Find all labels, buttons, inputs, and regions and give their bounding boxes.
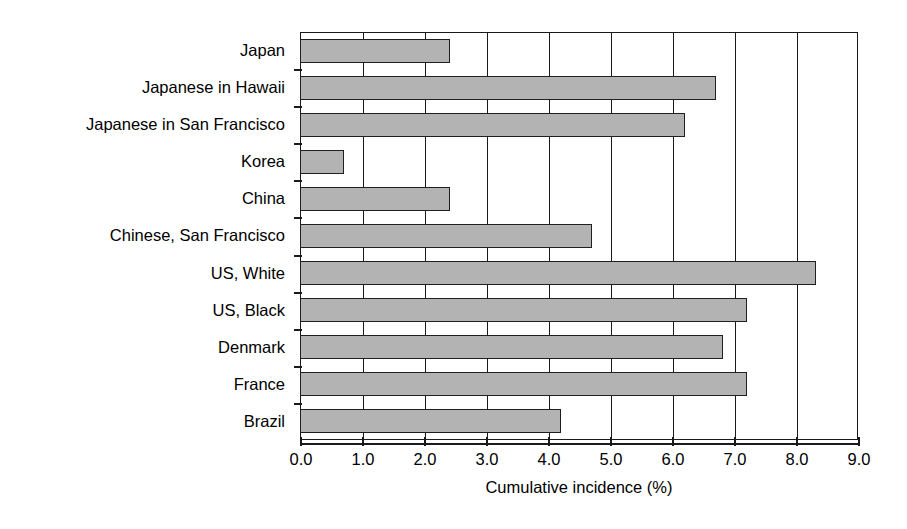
bar-row [301,33,857,70]
bar-denmark[interactable] [300,335,723,359]
y-axis-label-japanese-in-san-francisco: Japanese in San Francisco [0,106,294,143]
y-axis-label-brazil: Brazil [0,403,294,440]
y-axis-label-china: China [0,180,294,217]
y-axis-label-chinese-san-francisco: Chinese, San Francisco [0,217,294,254]
x-axis-tick-label-7.0: 7.0 [705,450,765,469]
y-axis-category-labels: JapanJapanese in HawaiiJapanese in San F… [0,32,294,440]
bar-row [301,402,857,439]
x-axis-tick-5.0 [610,437,612,446]
bar-us-white[interactable] [300,261,816,285]
bar-row [301,328,857,365]
x-axis-tick-label-4.0: 4.0 [519,450,579,469]
x-axis-tick-label-8.0: 8.0 [767,450,827,469]
y-axis-label-japanese-in-hawaii: Japanese in Hawaii [0,69,294,106]
bar-row [301,218,857,255]
bar-row [301,365,857,402]
bar-japanese-in-san-francisco[interactable] [300,113,685,137]
x-axis-tick-label-3.0: 3.0 [457,450,517,469]
bar-row [301,254,857,291]
bar-chart-figure: JapanJapanese in HawaiiJapanese in San F… [0,0,907,529]
x-axis-tick-6.0 [672,437,674,446]
x-axis-tick-label-6.0: 6.0 [643,450,703,469]
x-axis-tick-label-5.0: 5.0 [581,450,641,469]
plot-area [300,32,858,440]
y-axis-tick [294,69,302,71]
y-axis-tick [294,366,302,368]
y-axis-tick [294,180,302,182]
x-axis-tick-3.0 [486,437,488,446]
y-axis-tick [294,143,302,145]
y-axis-tick [294,292,302,294]
bar-row [301,144,857,181]
y-axis-tick [294,255,302,257]
bar-rows [301,33,857,439]
y-axis-label-us-white: US, White [0,254,294,291]
bar-japan[interactable] [300,39,450,63]
x-axis-tick-label-0.0: 0.0 [271,450,331,469]
y-axis-label-korea: Korea [0,143,294,180]
x-axis-line [300,443,858,445]
y-axis-label-us-black: US, Black [0,292,294,329]
y-axis-label-france: France [0,366,294,403]
bar-row [301,70,857,107]
x-axis-tick-4.0 [548,437,550,446]
x-axis-tick-0.0 [300,437,302,446]
x-axis-tick-label-1.0: 1.0 [333,450,393,469]
y-axis-tick [294,106,302,108]
x-axis-title: Cumulative incidence (%) [300,478,858,497]
bar-row [301,291,857,328]
bar-chinese-san-francisco[interactable] [300,224,592,248]
y-axis-label-denmark: Denmark [0,329,294,366]
y-axis-label-japan: Japan [0,32,294,69]
y-axis-tick [294,329,302,331]
x-axis-tick-label-9.0: 9.0 [829,450,889,469]
x-axis-tick-1.0 [362,437,364,446]
bar-korea[interactable] [300,150,344,174]
bar-japanese-in-hawaii[interactable] [300,76,716,100]
bar-us-black[interactable] [300,298,747,322]
bar-china[interactable] [300,187,450,211]
x-axis-tick-2.0 [424,437,426,446]
bar-brazil[interactable] [300,409,561,433]
x-axis-tick-9.0 [858,437,860,446]
y-axis-tick [294,217,302,219]
bar-row [301,181,857,218]
bar-row [301,107,857,144]
x-axis-tick-label-2.0: 2.0 [395,450,455,469]
x-axis-tick-8.0 [796,437,798,446]
x-axis-tick-7.0 [734,437,736,446]
y-axis-tick [294,403,302,405]
bar-france[interactable] [300,372,747,396]
